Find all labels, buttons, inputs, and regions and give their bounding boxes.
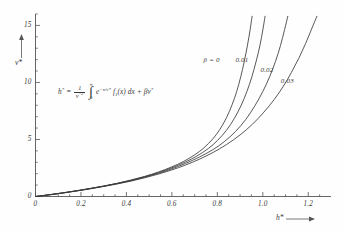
curves-group — [36, 16, 317, 196]
axes-group — [35, 14, 331, 197]
curve-label-1: 0.01 — [235, 56, 248, 64]
equation-lhs: h* — [58, 87, 64, 96]
y-tick-label: 15 — [17, 21, 32, 29]
x-axis-arrow — [286, 217, 315, 222]
integral-symbol-group: ∞ ∫ 0 — [89, 83, 93, 101]
x-tick-label: 1.0 — [256, 200, 270, 208]
chart-plot-area — [0, 0, 343, 232]
equation-fraction: 1 v*2 — [74, 85, 85, 99]
equation-differential: dx — [128, 87, 135, 96]
x-tick-label: 0.6 — [165, 200, 179, 208]
x-axis-title-text: h* — [276, 213, 284, 222]
equation-plus: + — [137, 87, 142, 96]
curve-series-3 — [36, 16, 317, 196]
figure-container: v* h* 00.20.40.60.81.01.2051015 β = 00.0… — [0, 0, 343, 232]
y-tick-label: 5 — [17, 135, 32, 143]
integral-lower-limit: 0 — [90, 96, 92, 101]
y-axis-title: v* — [15, 58, 22, 67]
y-tick-label: 10 — [17, 78, 32, 86]
equation-annotation: h* = 1 v*2 ∞ ∫ 0 e−x/v* f1(x) dx + βv* — [58, 83, 153, 101]
equation-equals: = — [66, 87, 71, 96]
x-tick-label: 0.2 — [74, 200, 88, 208]
equation-exponential: e−x/v* — [96, 87, 111, 96]
x-tick-label: 0.4 — [119, 200, 133, 208]
curve-label-3: 0.03 — [281, 77, 294, 85]
y-tick-label: 0 — [17, 192, 32, 200]
equation-function: f1(x) — [113, 87, 126, 96]
y-axis-title-text: v* — [15, 58, 22, 67]
equation-beta-term: βv* — [144, 87, 153, 96]
x-tick-label: 0.8 — [210, 200, 224, 208]
curve-label-0: β = 0 — [204, 56, 220, 64]
curve-series-2 — [36, 16, 288, 196]
y-axis-arrow — [19, 34, 24, 58]
tick-marks-group — [36, 14, 320, 197]
x-tick-label: 0 — [29, 200, 43, 208]
fraction-denominator: v*2 — [76, 92, 84, 99]
x-tick-label: 1.2 — [301, 200, 315, 208]
curve-label-2: 0.02 — [260, 66, 273, 74]
curve-series-1 — [36, 16, 266, 196]
curve-series-0 — [36, 16, 253, 196]
x-axis-title: h* — [276, 213, 284, 222]
